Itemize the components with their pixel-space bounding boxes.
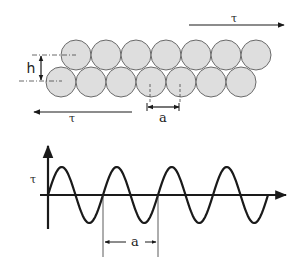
- atom-circle: [226, 67, 256, 97]
- atom-row-bottom: [46, 67, 256, 97]
- shear-arrow-bottom: τ: [34, 112, 132, 125]
- atom-circle: [166, 67, 196, 97]
- atom-circle: [241, 40, 271, 70]
- h-label: h: [27, 60, 36, 76]
- atom-circle: [211, 40, 241, 70]
- a-label-bottom: a: [131, 234, 139, 249]
- atom-circle: [46, 67, 76, 97]
- atomic-layers-panel: τ h a τ: [19, 12, 284, 125]
- atom-row-top: [61, 40, 271, 70]
- a-label-top: a: [159, 110, 167, 125]
- stress-wave-panel: τ a: [30, 146, 286, 257]
- tau-axis-label: τ: [30, 173, 36, 186]
- period-dimension: a: [103, 195, 158, 257]
- atom-circle: [121, 40, 151, 70]
- tau-label-top: τ: [231, 12, 237, 25]
- atom-circle: [106, 67, 136, 97]
- atom-circle: [181, 40, 211, 70]
- atom-circle: [91, 40, 121, 70]
- tau-label-bottom: τ: [69, 112, 75, 125]
- atom-circle: [76, 67, 106, 97]
- atom-circle: [136, 67, 166, 97]
- shear-arrow-top: τ: [189, 12, 284, 25]
- atom-circle: [151, 40, 181, 70]
- shear-stress-diagram: τ h a τ τ: [0, 0, 303, 265]
- atom-circle: [196, 67, 226, 97]
